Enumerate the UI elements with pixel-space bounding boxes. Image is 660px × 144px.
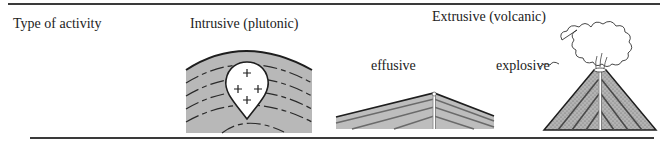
effusive-label: effusive — [371, 58, 416, 74]
shield-volcano-figure — [334, 90, 496, 130]
plutonic-intrusion-figure — [184, 40, 314, 134]
stratovolcano-figure — [540, 20, 660, 132]
intrusive-heading: Intrusive (plutonic) — [190, 16, 298, 32]
extrusive-heading: Extrusive (volcanic) — [432, 9, 546, 25]
table-top-rule — [8, 3, 660, 5]
ash-cloud-icon — [540, 21, 632, 67]
type-of-activity-label: Type of activity — [13, 16, 101, 32]
table-bottom-rule — [30, 137, 654, 139]
